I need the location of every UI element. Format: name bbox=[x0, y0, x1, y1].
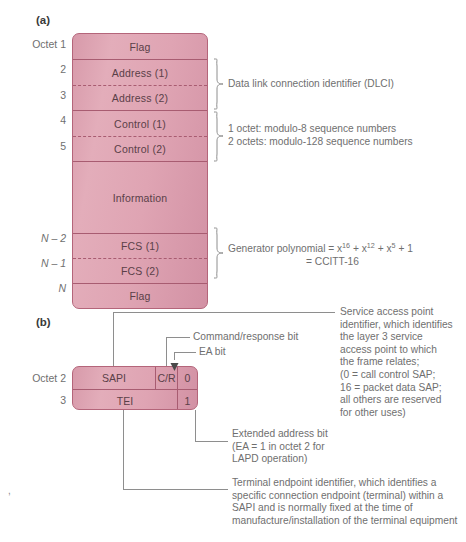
annotation-control-octets: 1 octet: modulo-8 sequence numbers 2 oct… bbox=[228, 123, 413, 148]
ea-desc-line-2: (EA = 1 in octet 2 for bbox=[232, 441, 325, 452]
octet-label-b-2: Octet 2 bbox=[8, 372, 66, 384]
field-fcs-2: FCS (2) bbox=[73, 258, 207, 283]
figure-canvas: (a) Octet 1 2 3 4 5 N – 2 N – 1 N Flag A… bbox=[0, 0, 466, 542]
brace-fcs bbox=[212, 227, 226, 279]
octet-label-b-3: 3 bbox=[8, 394, 66, 406]
field-control-2: Control (2) bbox=[73, 136, 207, 161]
annotation-control-line2: 2 octets: modulo-128 sequence numbers bbox=[228, 136, 413, 147]
fcs-tail: + 1 bbox=[396, 243, 413, 254]
sapi-desc-line-1: Service access point bbox=[340, 306, 433, 317]
brace-dlci bbox=[212, 58, 226, 110]
ea-arrow-icon bbox=[170, 358, 179, 376]
fcs-prefix: Generator polynomial = x bbox=[228, 243, 342, 254]
annotation-generator-polynomial: Generator polynomial = x16 + x12 + x5 + … bbox=[228, 240, 413, 269]
annotation-fcs-line1: Generator polynomial = x16 + x12 + x5 + … bbox=[228, 243, 413, 254]
octet-label-n-minus-1: N – 1 bbox=[8, 257, 66, 269]
fcs-mid-1: + x bbox=[350, 243, 367, 254]
octet-label-5: 5 bbox=[8, 140, 66, 152]
callout-terminal-endpoint-identifier: Terminal endpoint identifier, which iden… bbox=[232, 477, 457, 527]
cell-sapi: SAPI bbox=[73, 367, 155, 389]
callout-command-response-bit: Command/response bit bbox=[193, 331, 298, 344]
frame-format-diagram: Flag Address (1) Address (2) Control (1)… bbox=[72, 33, 208, 309]
leader-tei-horizontal bbox=[123, 489, 228, 490]
sapi-desc-line-9: for other uses) bbox=[340, 407, 406, 418]
callout-sapi-description: Service access point identifier, which i… bbox=[340, 306, 453, 419]
field-address-2: Address (2) bbox=[73, 85, 207, 110]
field-address-1: Address (1) bbox=[73, 59, 207, 85]
leader-tei-vertical bbox=[123, 410, 124, 489]
callout-ea-bit: EA bit bbox=[199, 346, 226, 359]
fcs-exp-16: 16 bbox=[342, 241, 350, 250]
brace-control bbox=[212, 111, 226, 162]
cell-tei: TEI bbox=[73, 390, 177, 410]
sapi-desc-line-2: identifier, which identifies bbox=[340, 319, 453, 330]
octet-label-1: Octet 1 bbox=[8, 38, 66, 50]
cell-ea-octet3: 1 bbox=[177, 390, 197, 410]
leader-cr-vertical bbox=[166, 337, 167, 366]
annotation-control-line1: 1 octet: modulo-8 sequence numbers bbox=[228, 123, 396, 134]
ea-desc-line-1: Extended address bit bbox=[232, 428, 328, 439]
octet-label-2: 2 bbox=[8, 63, 66, 75]
panel-a-label: (a) bbox=[36, 14, 50, 26]
sapi-desc-line-4: access point to which bbox=[340, 344, 437, 355]
address-field-diagram: SAPI C/R 0 TEI 1 bbox=[72, 366, 198, 410]
leader-ea-horizontal bbox=[174, 352, 196, 353]
octet-label-4: 4 bbox=[8, 114, 66, 126]
sapi-desc-line-5: the frame relates; bbox=[340, 356, 419, 367]
leader-ea-desc-vertical bbox=[195, 410, 196, 441]
sapi-desc-line-7: 16 = packet data SAP; bbox=[340, 382, 442, 393]
octet-label-n: N bbox=[8, 282, 66, 294]
annotation-fcs-line2: = CCITT-16 bbox=[228, 256, 359, 269]
tei-desc-line-3: SAPI and is normally fixed at the time o… bbox=[232, 502, 413, 513]
field-flag-end: Flag bbox=[73, 283, 207, 308]
annotation-dlci: Data link connection identifier (DLCI) bbox=[228, 78, 394, 91]
tei-desc-line-2: specific connection endpoint (terminal) … bbox=[232, 490, 443, 501]
field-flag-start: Flag bbox=[73, 34, 207, 59]
field-fcs-1: FCS (1) bbox=[73, 233, 207, 258]
octet-label-n-minus-2: N – 2 bbox=[8, 232, 66, 244]
callout-extended-address-bit: Extended address bit (EA = 1 in octet 2 … bbox=[232, 428, 328, 466]
fcs-mid-2: + x bbox=[375, 243, 392, 254]
octet-label-3: 3 bbox=[8, 89, 66, 101]
leader-cr-horizontal bbox=[166, 337, 190, 338]
stray-mark: , bbox=[8, 485, 11, 496]
sapi-desc-line-8: all others are reserved bbox=[340, 394, 441, 405]
tei-desc-line-4: manufacture/installation of the terminal… bbox=[232, 515, 457, 526]
cell-ea-octet2: 0 bbox=[177, 367, 197, 389]
sapi-desc-line-3: the layer 3 service bbox=[340, 331, 423, 342]
panel-b-label: (b) bbox=[36, 316, 51, 328]
leader-sapi-horizontal bbox=[113, 312, 335, 313]
ea-desc-line-3: LAPD operation) bbox=[232, 453, 307, 464]
field-control-1: Control (1) bbox=[73, 110, 207, 136]
field-information: Information bbox=[73, 161, 207, 233]
tei-desc-line-1: Terminal endpoint identifier, which iden… bbox=[232, 477, 436, 488]
sapi-desc-line-6: (0 = call control SAP; bbox=[340, 369, 435, 380]
address-row-octet3: TEI 1 bbox=[73, 389, 197, 410]
leader-ea-desc-horizontal bbox=[195, 441, 228, 442]
fcs-exp-12: 12 bbox=[367, 241, 375, 250]
leader-sapi-vertical bbox=[113, 312, 114, 366]
